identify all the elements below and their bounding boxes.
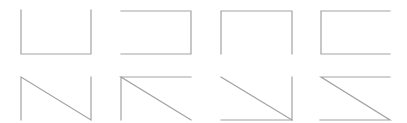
z-shape [320,77,390,120]
open-top-rectangle-stroke [21,10,91,54]
open-right-rectangle [321,11,390,54]
n-zigzag-stroke [21,77,91,120]
z-shape-stroke [320,77,390,120]
open-bottom-rectangle [221,11,292,54]
reversed-z-open-bottom [121,77,191,120]
shapes-diagram [0,0,407,123]
open-right-rectangle-stroke [321,11,390,54]
n-zigzag [21,77,91,120]
open-top-rectangle [21,10,91,54]
diagonal-corner-bottom-right [221,77,292,120]
open-left-rectangle [121,11,191,54]
reversed-z-open-bottom-stroke [121,77,191,120]
open-left-rectangle-stroke [121,11,191,54]
diagonal-corner-bottom-right-stroke [221,77,292,120]
open-bottom-rectangle-stroke [221,11,292,54]
